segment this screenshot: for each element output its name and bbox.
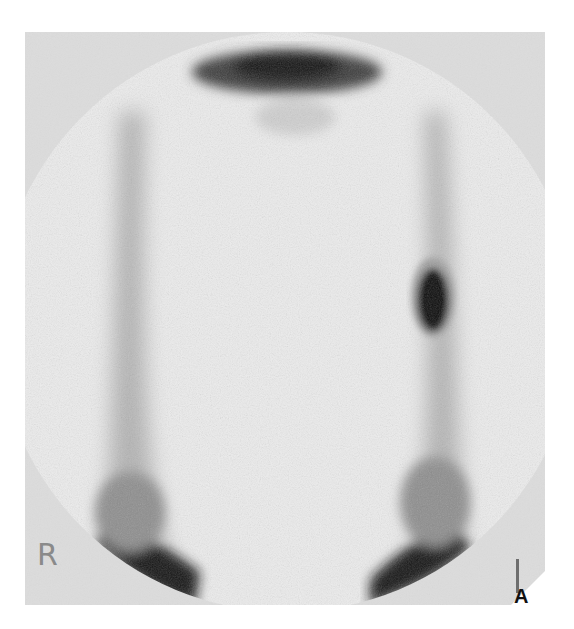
scan-panel: R (25, 32, 545, 605)
panel-letter: A (514, 585, 528, 608)
right-side-marker: R (37, 537, 58, 572)
scan-image (25, 32, 545, 605)
